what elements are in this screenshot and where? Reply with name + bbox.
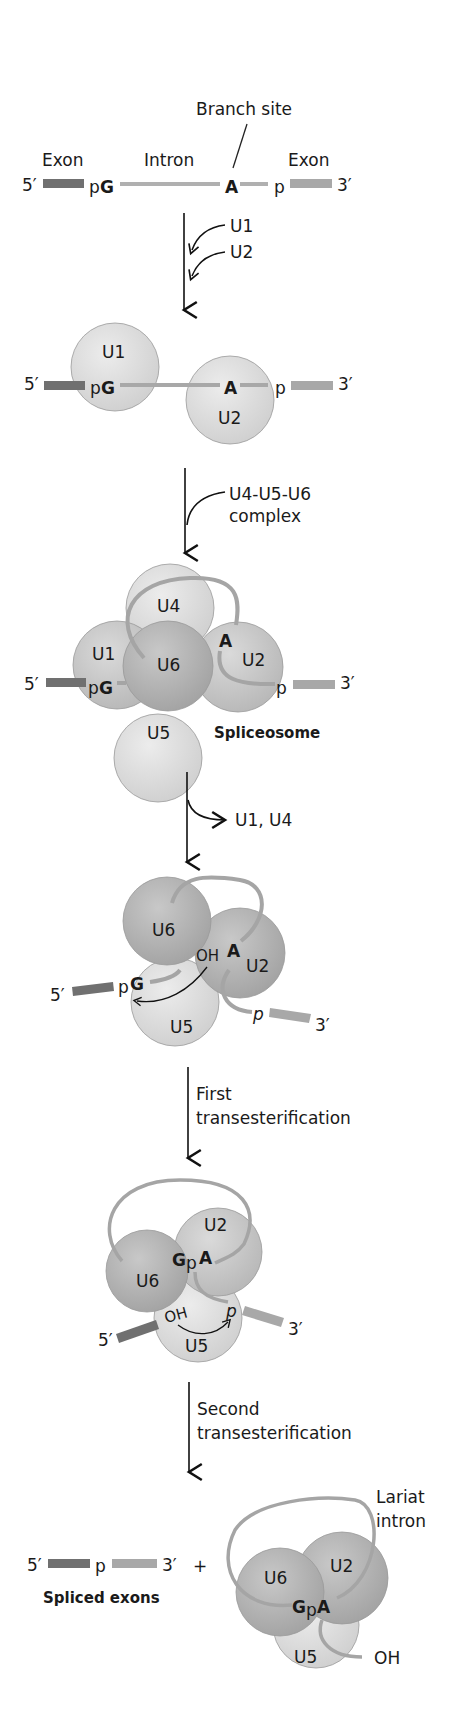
exon-5-bar — [116, 1320, 159, 1343]
three-prime-label: 3′ — [288, 1319, 303, 1339]
u2-snrnp — [186, 356, 274, 444]
G-label: G — [172, 1250, 186, 1270]
exon-left-label: Exon — [42, 150, 83, 170]
oh-label: OH — [196, 947, 219, 965]
lariat-intron-complex: U6 U2 U5 G p A OH Lariat intron — [228, 1487, 426, 1668]
u6-label: U6 — [264, 1568, 287, 1588]
u6-label: U6 — [152, 920, 175, 940]
incoming-arrow-icon — [192, 252, 225, 276]
diagram-svg: Branch site Exon Intron Exon 5′ p G A p … — [0, 0, 457, 1711]
incoming-arrow-icon — [192, 225, 225, 250]
stage-spliceosome: U4 U1 U6 U2 U5 A 5′ p G p 3′ Spliceosome — [24, 564, 355, 802]
exon-5-bar — [43, 179, 84, 188]
three-prime-label: 3′ — [162, 1555, 177, 1575]
step-second-transesterification: Second transesterification — [189, 1382, 352, 1472]
intron-label: intron — [376, 1511, 426, 1531]
transesterification-label: transesterification — [197, 1423, 352, 1443]
branch-site-label: Branch site — [196, 99, 292, 119]
five-prime-label: 5′ — [98, 1330, 113, 1350]
u5-label: U5 — [294, 1647, 317, 1667]
p-junction: p — [95, 1556, 106, 1576]
pG-G: G — [99, 678, 113, 698]
step-first-transesterification: First transesterification — [188, 1067, 351, 1158]
exon-3-bar — [293, 680, 335, 689]
pG-p: p — [118, 977, 129, 997]
stage-after-first-step: U2 U6 U5 G p A OH p 5′ 3′ — [98, 1180, 303, 1362]
outgoing-arrow-icon — [188, 800, 225, 820]
gpa-p: p — [306, 1600, 317, 1620]
u1-added-label: U1 — [230, 216, 253, 236]
u6-label: U6 — [136, 1271, 159, 1291]
exon-right-label: Exon — [288, 150, 329, 170]
oh-label: OH — [374, 1648, 400, 1668]
five-prime-label: 5′ — [27, 1555, 42, 1575]
p-3: p — [274, 177, 285, 197]
spliceosome-label: Spliceosome — [214, 724, 320, 742]
exon-5-bar — [46, 678, 86, 687]
p-3: p — [275, 378, 286, 398]
stage-pre-mrna: Branch site Exon Intron Exon 5′ p G A p … — [22, 99, 352, 197]
exon-3-bar — [269, 1008, 311, 1023]
incoming-arrow-icon — [187, 492, 225, 525]
plus-sign: + — [193, 1556, 207, 1576]
splicing-diagram: Branch site Exon Intron Exon 5′ p G A p … — [0, 0, 457, 1711]
u2-label: U2 — [242, 650, 265, 670]
u4-u5-u6-label: U4-U5-U6 — [229, 484, 311, 504]
u2-label: U2 — [204, 1215, 227, 1235]
pG-p: p — [90, 378, 101, 398]
u2-added-label: U2 — [230, 242, 253, 262]
u2-label: U2 — [218, 408, 241, 428]
exon-5-bar — [44, 381, 85, 390]
u5-label: U5 — [170, 1017, 193, 1037]
exon-3-bar — [290, 179, 332, 188]
branch-site-pointer — [233, 124, 247, 168]
p-3: p — [225, 1301, 237, 1321]
exon-3-bar — [112, 1559, 157, 1568]
u4-label: U4 — [157, 596, 180, 616]
u2-label: U2 — [330, 1556, 353, 1576]
branch-A: A — [219, 631, 233, 651]
second-label: Second — [197, 1399, 260, 1419]
stage-u1-u2-bound: U1 U2 5′ p G A p 3′ — [24, 323, 353, 444]
u6-snrnp — [236, 1548, 324, 1636]
five-prime-label: 5′ — [24, 374, 39, 394]
pG-p: p — [88, 678, 99, 698]
five-prime-label: 5′ — [24, 674, 39, 694]
branch-A: A — [227, 941, 241, 961]
branch-A: A — [225, 177, 239, 197]
three-prime-label: 3′ — [337, 175, 352, 195]
five-prime-label: 5′ — [22, 175, 37, 195]
five-prime-label: 5′ — [50, 985, 65, 1005]
p-3: p — [276, 678, 287, 698]
three-prime-label: 3′ — [338, 374, 353, 394]
pG-p: p — [89, 177, 100, 197]
u6-label: U6 — [157, 655, 180, 675]
u2-label: U2 — [246, 956, 269, 976]
gpa-A: A — [317, 1597, 331, 1617]
step-release-u1-u4: U1, U4 — [187, 772, 292, 862]
intron-label: Intron — [144, 150, 194, 170]
branch-A: A — [224, 378, 238, 398]
branch-A: A — [199, 1248, 213, 1268]
exon-3-bar — [291, 381, 333, 390]
gpa-G: G — [292, 1597, 306, 1617]
pG-G: G — [130, 974, 144, 994]
exon-5-bar — [72, 982, 114, 996]
pG-G: G — [100, 177, 114, 197]
transesterification-label: transesterification — [196, 1108, 351, 1128]
first-label: First — [196, 1084, 232, 1104]
stage-products: 5′ p 3′ + Spliced exons U6 U2 U5 G p A O… — [27, 1487, 426, 1668]
stage-activated: U6 U2 U5 OH A 5′ p G p 3′ — [50, 877, 330, 1046]
u1-label: U1 — [102, 342, 125, 362]
spliced-exons-label: Spliced exons — [43, 1589, 160, 1607]
exon-3-bar — [242, 1306, 284, 1327]
complex-label: complex — [229, 506, 301, 526]
u5-label: U5 — [185, 1336, 208, 1356]
step-add-u1-u2: U1 U2 — [184, 213, 253, 310]
p-3: p — [252, 1004, 264, 1024]
exon-5-bar — [48, 1559, 90, 1568]
u5-label: U5 — [147, 723, 170, 743]
pG-G: G — [101, 378, 115, 398]
u1-snrnp — [71, 323, 159, 411]
spliced-exons: 5′ p 3′ + Spliced exons — [27, 1555, 207, 1607]
